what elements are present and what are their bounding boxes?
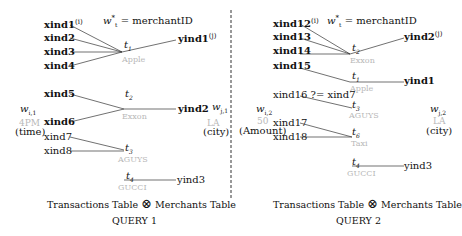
query1-merchant-apple: Apple xyxy=(122,56,145,64)
query2-t4: t4 xyxy=(352,157,360,169)
query1-xind3: xind3 xyxy=(44,47,75,57)
query1-title: QUERY 1 xyxy=(112,216,157,226)
query1-left-weight-unit: (time) xyxy=(15,127,45,137)
join-operator-icon: ⊗ xyxy=(367,196,378,211)
query2-xind17: xind17 xyxy=(273,118,307,128)
query1-t2: t2 xyxy=(125,89,133,101)
query2-t1: t1 xyxy=(352,71,360,83)
query2-comparison: xind16 ?= xind7 xyxy=(273,90,356,100)
query2-xind13: xind13 xyxy=(273,32,311,42)
query2-xind18: xind18 xyxy=(273,132,307,142)
query1-xind5: xind5 xyxy=(44,89,75,99)
join-operator-icon: ⊗ xyxy=(141,196,152,211)
query1-merchant-gucci: GUCCI xyxy=(118,184,147,192)
query1-yind3: yind3 xyxy=(177,175,205,185)
query1-xind6: xind6 xyxy=(44,117,75,127)
query2-t6: t6 xyxy=(352,127,360,139)
query1-yind2: yind2 xyxy=(178,104,209,114)
query2-yind2: yind2(j) xyxy=(404,31,442,42)
query2-xind12: xind12(i) xyxy=(273,18,319,29)
query1-join-caption: Transactions Table ⊗ Merchants Table xyxy=(47,197,236,210)
query2-merchant-gucci: GUCCI xyxy=(347,170,376,178)
query1-left-weight: wi,1 xyxy=(20,104,36,116)
query2-t2: t2 xyxy=(352,43,360,55)
query1-t1: t1 xyxy=(124,40,132,52)
query1-xind1: xind1(i) xyxy=(44,19,83,30)
query2-xind15: xind15 xyxy=(273,61,311,71)
query2-merchant-taxi: Taxi xyxy=(351,140,368,148)
query2-merchant-exxon: Exxon xyxy=(350,57,375,65)
query2-title: QUERY 2 xyxy=(336,216,381,226)
query2-yind3: yind3 xyxy=(404,161,432,171)
query1-xind8: xind8 xyxy=(44,146,72,156)
query1-xind4: xind4 xyxy=(44,61,75,71)
query1-yind1: yind1(j) xyxy=(178,33,216,44)
query2-yind1: yind1 xyxy=(404,76,435,86)
query1-xind7: xind7 xyxy=(44,132,72,142)
query2-weight-label: w*t = merchantID xyxy=(327,15,417,28)
query2-merchant-aguys: AGUYS xyxy=(349,112,379,120)
query1-merchant-exxon: Exxon xyxy=(122,113,147,121)
query1-right-weight: wj,1 xyxy=(212,102,228,114)
query1-weight-label: w*t = merchantID xyxy=(103,15,193,28)
query2-xind14: xind14 xyxy=(273,46,311,56)
query1-xind2: xind2 xyxy=(44,33,75,43)
query2-right-weight: wj,2 xyxy=(430,104,446,116)
query1-right-weight-unit: (city) xyxy=(203,127,229,137)
query2-join-caption: Transactions Table ⊗ Merchants Table xyxy=(273,197,462,210)
query1-t3: t3 xyxy=(125,143,133,155)
query2-right-weight-unit: (city) xyxy=(426,126,452,136)
query1-merchant-aguys: AGUYS xyxy=(118,156,148,164)
query2-left-weight: wi,2 xyxy=(256,104,272,116)
query1-t4: t4 xyxy=(126,171,134,183)
